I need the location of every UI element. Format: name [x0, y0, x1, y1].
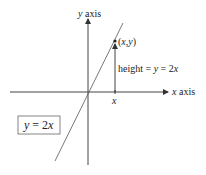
point-xy: [113, 39, 116, 42]
point-label: (x,y): [118, 36, 136, 48]
x-tick-label: x: [111, 95, 117, 106]
y-axis-label: y axis: [77, 8, 101, 19]
graph-diagram: y axis (x,y) height = y = 2x x x axis y …: [0, 0, 206, 175]
height-label: height = y = 2x: [118, 63, 179, 74]
x-axis-label: x axis: [171, 86, 195, 97]
equation-label: y = 2x: [23, 118, 54, 132]
